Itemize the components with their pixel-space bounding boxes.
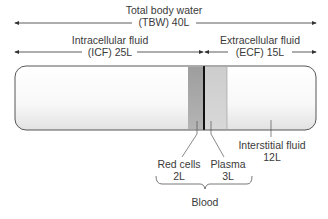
red-cells-label: Red cells 2L bbox=[154, 158, 204, 182]
blood-label: Blood bbox=[180, 196, 230, 208]
plasma-label: Plasma 3L bbox=[206, 158, 250, 182]
red-cells-band bbox=[188, 67, 203, 129]
tbw-label: Total body water (TBW) 40L bbox=[114, 4, 214, 28]
fluid-diagram bbox=[0, 0, 328, 219]
ecf-label: Extracellular fluid (ECF) 15L bbox=[210, 34, 310, 58]
icf-label: Intracellular fluid (ICF) 25L bbox=[58, 34, 162, 58]
plasma-band bbox=[205, 67, 227, 129]
